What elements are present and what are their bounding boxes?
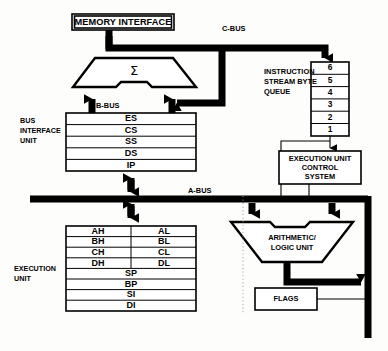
svg-text:DI: DI [127,300,136,310]
c-bus-path [109,36,325,58]
alu-result-bus [287,262,361,282]
svg-text:BL: BL [158,236,170,246]
svg-text:EXECUTION UNIT: EXECUTION UNIT [289,154,352,163]
svg-text:INTERFACE: INTERFACE [20,126,61,135]
svg-text:BH: BH [92,236,105,246]
svg-text:STREAM BYTE: STREAM BYTE [264,77,317,86]
a-bus-label: A-BUS [188,186,211,195]
svg-text:DS: DS [125,148,138,158]
c-bus-label: C-BUS [222,24,245,33]
flags-label: FLAGS [273,294,298,303]
queue-cell: 5 [328,75,333,85]
svg-text:CS: CS [125,125,138,135]
alu-label: ARITHMETIC/ LOGIC UNIT [268,233,316,252]
svg-text:CONTROL: CONTROL [302,163,339,172]
svg-text:SP: SP [125,268,137,278]
svg-text:EXECUTION: EXECUTION [14,264,56,273]
svg-text:CH: CH [92,247,105,257]
queue-cell: 6 [328,62,333,72]
queue-cell: 2 [328,112,333,122]
memory-interface-label: MEMORY INTERFACE [74,17,171,27]
svg-text:LOGIC UNIT: LOGIC UNIT [271,243,314,252]
svg-text:INSTRUCTION: INSTRUCTION [264,67,315,76]
instruction-queue-label: INSTRUCTION STREAM BYTE QUEUE [264,67,317,96]
svg-text:QUEUE: QUEUE [264,87,290,96]
svg-text:CL: CL [158,247,170,257]
svg-text:IP: IP [127,160,136,170]
execution-unit-label: EXECUTION UNIT [14,264,56,283]
svg-text:SYSTEM: SYSTEM [305,172,335,181]
svg-text:ARITHMETIC/: ARITHMETIC/ [268,233,316,242]
adder-sigma-label: Σ [130,63,138,78]
queue-cell: 4 [328,87,333,97]
b-bus-label: B-BUS [96,101,119,110]
svg-text:SI: SI [127,289,136,299]
svg-text:UNIT: UNIT [14,274,31,283]
svg-text:AH: AH [92,226,105,236]
svg-text:SS: SS [125,136,137,146]
svg-text:DH: DH [92,258,105,268]
diagram-svg: MEMORY INTERFACE Σ C-BUS B-BUS A-BUS BUS… [0,0,388,351]
queue-cell: 3 [328,99,333,109]
svg-text:DL: DL [158,258,170,268]
svg-text:BUS: BUS [20,116,35,125]
svg-text:BP: BP [125,279,138,289]
svg-text:UNIT: UNIT [20,136,37,145]
block-diagram-canvas: MEMORY INTERFACE Σ C-BUS B-BUS A-BUS BUS… [0,0,388,351]
bus-interface-unit-label: BUS INTERFACE UNIT [20,116,61,145]
svg-text:AL: AL [158,226,170,236]
queue-cell: 1 [328,124,333,134]
svg-text:ES: ES [125,113,137,123]
